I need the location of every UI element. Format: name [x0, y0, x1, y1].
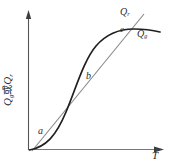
point-label-b: b [86, 71, 91, 81]
point-label-a: a [38, 126, 43, 136]
y-axis-label-q2: Q [1, 77, 13, 85]
y-axis-label-sub-g: g [7, 95, 14, 98]
point-label-c: c [120, 25, 124, 34]
figure-container: Qg或Qr T a b c Qr Qg [0, 0, 171, 168]
heat-removal-line-qr [32, 14, 144, 151]
y-axis-arrow-icon [26, 10, 31, 19]
curve-label-qr: Qr [120, 7, 130, 18]
x-axis-label: T [152, 150, 158, 161]
y-axis-label-sub-r: r [7, 74, 14, 77]
y-axis-label-q1: Q [1, 98, 13, 106]
y-axis-label: Qg或Qr [2, 92, 14, 106]
heat-generation-curve-qg [30, 29, 161, 150]
curve-label-qr-sub: r [127, 10, 129, 17]
plot-canvas [0, 0, 171, 168]
curve-label-qg-sub: g [144, 32, 147, 39]
y-axis-label-conjunction: 或 [2, 85, 13, 95]
curve-label-qg: Qg [137, 29, 147, 40]
